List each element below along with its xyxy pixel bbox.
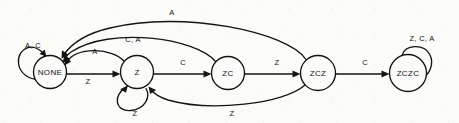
edge-zcz-zczc-arrowhead <box>382 71 390 78</box>
edge-label-z-zc: C <box>180 58 186 67</box>
edge-label-zczc-self: Z, C, A <box>409 34 434 43</box>
edge-none-z <box>67 71 121 78</box>
node-zczc-label: ZCZC <box>397 69 420 78</box>
edge-none-z-arrowhead <box>113 71 121 78</box>
edge-label-zcz-none: A <box>169 8 174 17</box>
node-none-label: NONE <box>38 68 63 77</box>
edge-zc-zcz-arrowhead <box>293 71 301 78</box>
node-zc[interactable]: ZC <box>212 57 245 90</box>
fsm-canvas: NONE Z ZC ZCZ ZCZC A, C Z A Z C C, A Z A… <box>0 0 459 123</box>
edge-z-zc <box>154 71 212 78</box>
state-machine-diagram: NONE Z ZC ZCZ ZCZC A, C Z A Z C C, A Z A… <box>0 0 459 123</box>
node-zczc[interactable]: ZCZC <box>390 55 427 92</box>
node-zcz-label: ZCZ <box>310 69 327 78</box>
node-z[interactable]: Z <box>121 56 154 89</box>
edge-label-zc-none: C, A <box>125 35 140 44</box>
edge-label-zcz-zczc: C <box>362 58 368 67</box>
node-zc-label: ZC <box>222 69 233 78</box>
edge-z-self <box>117 86 148 111</box>
node-none[interactable]: NONE <box>34 56 67 89</box>
edge-label-z-self: Z <box>133 109 138 118</box>
node-z-label: Z <box>134 68 139 77</box>
edge-zc-zcz <box>245 71 301 78</box>
edge-z-zc-arrowhead <box>204 71 212 78</box>
edge-label-zc-zcz: Z <box>275 58 280 67</box>
node-zcz[interactable]: ZCZ <box>301 56 336 91</box>
edge-label-zcz-z: Z <box>230 109 235 118</box>
edge-label-none-self: A, C <box>25 41 41 50</box>
edge-label-z-none: A <box>92 47 97 56</box>
edge-label-none-z: Z <box>86 77 91 86</box>
edge-zcz-zczc <box>336 71 390 78</box>
